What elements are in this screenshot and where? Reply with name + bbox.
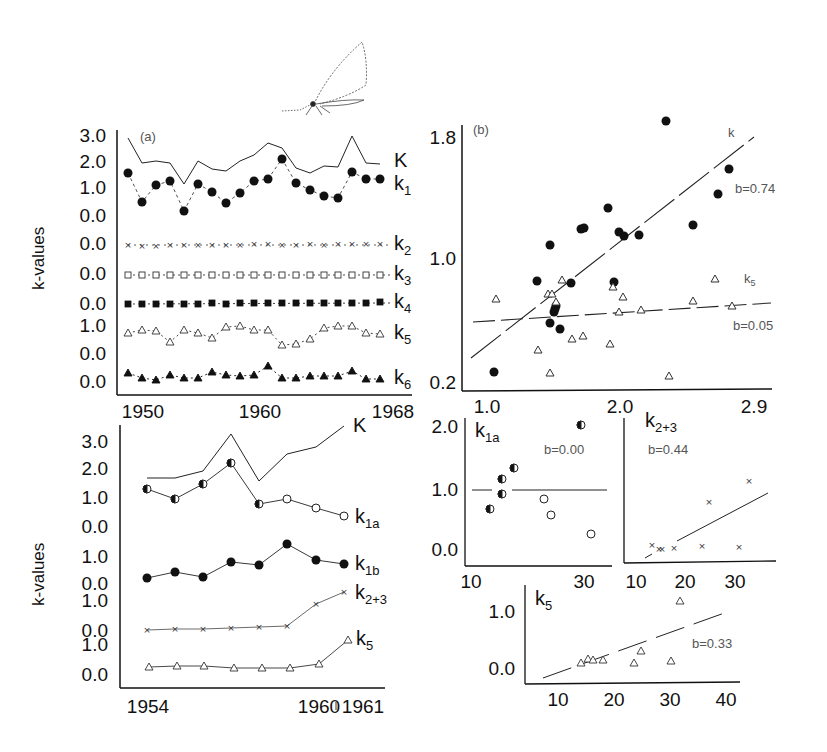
- legend-k1: k1: [394, 172, 411, 198]
- series-k: [490, 117, 734, 377]
- y-tick: 1.0: [82, 590, 108, 611]
- legend-k6: k6: [394, 366, 411, 392]
- panel-a-top: (a) 3.0 2.0 1.0 0.0 0.0 0.0 0.0 1.0 0.0 …: [29, 125, 414, 422]
- svg-text:×: ×: [362, 239, 370, 249]
- x-tick: 1968: [372, 401, 414, 422]
- y-tick: 0.0: [80, 293, 106, 314]
- y-tick: 0.0: [82, 516, 108, 537]
- series-k2: ×××××××××××××××××××: [124, 239, 390, 251]
- x-tick: 10: [625, 571, 646, 592]
- slope-k5-annotation: b=0.05: [733, 318, 773, 333]
- y-tick: 1.0: [432, 479, 458, 500]
- svg-text:×: ×: [264, 239, 272, 249]
- svg-text:×: ×: [698, 541, 706, 551]
- series-k6: [124, 362, 384, 383]
- svg-text:×: ×: [194, 240, 202, 250]
- y-tick: 2.0: [80, 151, 106, 172]
- y-tick: 1.0: [80, 177, 106, 198]
- figure: (a) 3.0 2.0 1.0 0.0 0.0 0.0 0.0 1.0 0.0 …: [0, 0, 827, 752]
- y-tick: 0.0: [80, 371, 106, 392]
- legend-k1a: k1a: [355, 505, 380, 531]
- svg-text:×: ×: [312, 599, 320, 609]
- series-k4: [125, 299, 390, 307]
- legend-k5: k5: [356, 627, 373, 653]
- legend-K: K: [353, 414, 367, 436]
- y-tick: 3.0: [80, 125, 106, 146]
- x-tick: 20: [603, 689, 624, 710]
- panel-k1a-scatter: 2.0 1.0 0.0 10 30 k1a b=0.00: [432, 416, 612, 592]
- slope-annotation: b=0.44: [648, 442, 688, 457]
- svg-text:×: ×: [208, 240, 216, 250]
- svg-text:×: ×: [180, 240, 188, 250]
- svg-text:×: ×: [320, 240, 328, 250]
- svg-text:×: ×: [745, 476, 753, 486]
- series-k2-3: ××××××××: [143, 587, 348, 635]
- x-tick: 1961: [342, 696, 384, 717]
- legend-K: K: [394, 149, 408, 171]
- svg-text:×: ×: [278, 240, 286, 250]
- svg-text:×: ×: [670, 543, 678, 553]
- panel-b-label: (b): [473, 122, 489, 137]
- series-K: [147, 426, 344, 481]
- y-tick: 1.0: [80, 315, 106, 336]
- svg-text:×: ×: [171, 624, 179, 634]
- y-axis-label: k-values: [29, 543, 48, 606]
- x-tick: 10: [460, 571, 481, 592]
- k5-title: k5: [535, 587, 552, 613]
- svg-text:×: ×: [255, 622, 263, 632]
- svg-text:×: ×: [236, 240, 244, 250]
- svg-text:×: ×: [376, 239, 384, 249]
- y-tick: 1.0: [82, 634, 108, 655]
- slope-annotation: b=0.00: [544, 442, 584, 457]
- series-k5: [124, 322, 384, 348]
- legend-k2: k2: [394, 232, 411, 258]
- series-k5: [145, 636, 352, 671]
- x-tick: 1.0: [474, 396, 500, 417]
- svg-text:×: ×: [283, 621, 291, 631]
- svg-text:×: ×: [222, 240, 230, 250]
- svg-text:×: ×: [705, 497, 713, 507]
- series-k3: [125, 272, 390, 278]
- series-k1a: [143, 459, 348, 520]
- panel-b-scatter: (b) 1.8 1.0 0.2 1.0 2.0 2.9 k k5 b=0.74 …: [430, 117, 776, 418]
- k1a-title: k1a: [475, 419, 500, 445]
- svg-text:×: ×: [124, 240, 132, 250]
- svg-text:×: ×: [306, 239, 314, 249]
- svg-text:×: ×: [292, 240, 300, 250]
- series-k5-label: k5: [744, 271, 756, 288]
- panel-a-bottom: 3.0 2.0 1.0 0.0 1.0 0.0 1.0 0.0 1.0 0.0 …: [29, 414, 387, 717]
- legend-k4: k4: [394, 290, 411, 316]
- x-tick: 40: [715, 689, 736, 710]
- svg-text:×: ×: [735, 542, 743, 552]
- y-tick: 1.0: [82, 487, 108, 508]
- svg-text:×: ×: [143, 625, 151, 635]
- y-tick: 0.0: [80, 205, 106, 226]
- y-tick: 1.0: [430, 248, 456, 269]
- legend-k3: k3: [394, 262, 411, 288]
- x-tick: 10: [547, 689, 568, 710]
- x-tick: 1954: [127, 696, 170, 717]
- panel-k23-scatter: 10 20 30 k2+3 b=0.44 ××××××××: [624, 409, 776, 592]
- y-tick: 0.0: [80, 263, 106, 284]
- svg-text:×: ×: [658, 544, 666, 554]
- svg-text:×: ×: [340, 587, 348, 597]
- series-k1: [124, 155, 385, 216]
- svg-text:×: ×: [166, 240, 174, 250]
- series-k-label: k: [728, 125, 735, 140]
- x-tick: 1960: [239, 401, 281, 422]
- k23-title: k2+3: [645, 409, 677, 435]
- slope-annotation: b=0.33: [692, 636, 732, 651]
- series-k5: [492, 275, 736, 379]
- svg-text:×: ×: [138, 241, 146, 251]
- svg-text:×: ×: [334, 239, 342, 249]
- x-tick: 1950: [122, 401, 164, 422]
- y-tick: 0.2: [430, 372, 456, 393]
- svg-text:×: ×: [250, 239, 258, 249]
- y-tick: 1.0: [489, 601, 515, 622]
- x-tick: 1960: [298, 696, 340, 717]
- y-tick: 0.0: [82, 664, 108, 685]
- y-tick: 2.0: [432, 416, 458, 437]
- y-tick: 0.0: [80, 233, 106, 254]
- x-tick: 20: [674, 571, 695, 592]
- x-tick: 2.9: [741, 396, 767, 417]
